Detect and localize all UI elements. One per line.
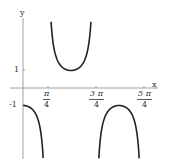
x-tick-label-5pi-over-4: 5 π 4 xyxy=(137,90,152,109)
x-tick-denominator: 4 xyxy=(43,100,50,109)
curve-branch xyxy=(99,106,139,159)
x-tick-label-3pi-over-4: 3 π 4 xyxy=(89,90,104,109)
x-tick-numerator: 3 π xyxy=(89,90,104,100)
y-tick-label: -1 xyxy=(9,101,17,109)
x-axis-label: x xyxy=(152,81,157,89)
x-tick-denominator: 4 xyxy=(137,100,152,109)
x-tick-numerator: π xyxy=(43,90,50,100)
y-tick-label: 1 xyxy=(14,66,19,74)
x-tick-denominator: 4 xyxy=(89,100,104,109)
curve-group xyxy=(23,22,139,159)
curve-branch xyxy=(51,22,91,71)
x-tick-numerator: 5 π xyxy=(137,90,152,100)
y-axis-label: y xyxy=(20,9,25,17)
x-tick-label-pi-over-4: π 4 xyxy=(43,90,50,109)
curve-branch xyxy=(23,106,43,159)
plot-canvas xyxy=(0,0,172,159)
